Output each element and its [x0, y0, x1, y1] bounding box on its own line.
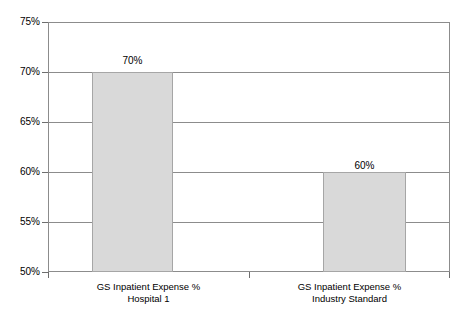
- y-axis-tick-label-65: 65%: [2, 117, 40, 127]
- x-axis-category-label-industry-standard: GS Inpatient Expense % Industry Standard: [249, 281, 450, 305]
- x-axis-category-label-hospital-1: GS Inpatient Expense % Hospital 1: [48, 281, 249, 305]
- x-axis-tick-mark-middle: [249, 272, 250, 278]
- category-label-line-1: GS Inpatient Expense %: [249, 281, 450, 293]
- bar-chart: 75% 70% 65% 60% 55% 50% 70% 60%: [0, 0, 471, 320]
- y-axis-tick-label-50: 50%: [2, 267, 40, 277]
- x-axis-tick-mark-start: [48, 272, 49, 278]
- x-axis-tick-mark-end: [449, 272, 450, 278]
- bar-industry-standard: [323, 172, 406, 272]
- y-axis-tick-label-70: 70%: [2, 67, 40, 77]
- y-axis-tick-60: 60%: [0, 167, 40, 177]
- y-axis-tick-label-75: 75%: [2, 17, 40, 27]
- y-axis-tick-55: 55%: [0, 217, 40, 227]
- y-axis-tick-50: 50%: [0, 267, 40, 277]
- y-axis-tick-75: 75%: [0, 17, 40, 27]
- y-axis-tick-65: 65%: [0, 117, 40, 127]
- category-label-line-2: Industry Standard: [249, 293, 450, 305]
- y-axis-tick-label-60: 60%: [2, 167, 40, 177]
- bar-hospital-1: [92, 72, 173, 272]
- y-axis-tick-70: 70%: [0, 67, 40, 77]
- category-label-line-1: GS Inpatient Expense %: [48, 281, 249, 293]
- bar-value-label-hospital-1: 70%: [92, 55, 173, 66]
- y-axis-tick-label-55: 55%: [2, 217, 40, 227]
- category-label-line-2: Hospital 1: [48, 293, 249, 305]
- bar-value-label-industry-standard: 60%: [323, 160, 406, 171]
